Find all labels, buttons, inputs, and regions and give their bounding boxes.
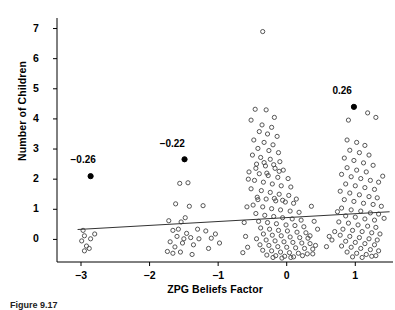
data-point xyxy=(311,252,315,256)
data-point xyxy=(259,189,263,193)
data-point xyxy=(363,143,367,147)
data-point xyxy=(167,219,171,223)
data-point xyxy=(344,182,348,186)
data-point xyxy=(339,172,343,176)
data-point xyxy=(268,157,272,161)
data-point xyxy=(217,241,221,245)
annotation-label-1: −0.22 xyxy=(160,138,185,149)
data-point xyxy=(367,237,371,241)
x-tick-label-3: 0 xyxy=(272,269,302,281)
data-point xyxy=(261,205,265,209)
data-point xyxy=(190,252,194,256)
x-tick-label-1: −2 xyxy=(135,269,165,281)
data-point xyxy=(279,184,283,188)
data-point xyxy=(252,138,256,142)
data-point xyxy=(305,252,309,256)
data-point xyxy=(276,245,280,249)
data-point xyxy=(346,221,350,225)
data-point xyxy=(372,187,376,191)
data-point xyxy=(357,236,361,240)
data-point xyxy=(178,181,182,185)
data-point xyxy=(374,254,378,258)
data-point xyxy=(299,218,303,222)
data-point xyxy=(277,192,281,196)
data-point xyxy=(313,243,317,247)
data-point xyxy=(367,195,371,199)
data-point xyxy=(276,151,280,155)
x-tick-label-2: −1 xyxy=(203,269,233,281)
data-point xyxy=(265,132,269,136)
data-point xyxy=(284,223,288,227)
data-point xyxy=(371,163,375,167)
data-point xyxy=(294,246,298,250)
y-tick-label-2: 2 xyxy=(25,172,47,184)
data-point xyxy=(175,234,179,238)
data-point xyxy=(89,237,93,241)
data-point xyxy=(271,143,275,147)
data-point xyxy=(270,207,274,211)
data-point xyxy=(366,224,370,228)
data-point xyxy=(359,209,363,213)
y-tick-label-6: 6 xyxy=(25,52,47,64)
data-point xyxy=(276,228,280,232)
data-point xyxy=(359,246,363,250)
data-point xyxy=(261,180,265,184)
data-point xyxy=(264,197,268,201)
data-point xyxy=(333,229,337,233)
data-point xyxy=(273,239,277,243)
data-point xyxy=(272,115,276,119)
data-point xyxy=(296,251,300,255)
plot-axes xyxy=(57,18,393,262)
data-point xyxy=(249,187,253,191)
data-point xyxy=(267,227,271,231)
data-point xyxy=(308,242,312,246)
annotation-label-0: −0.26 xyxy=(70,154,95,165)
data-point xyxy=(370,254,374,258)
data-point xyxy=(201,204,205,208)
data-point xyxy=(270,233,274,237)
data-point xyxy=(279,234,283,238)
data-point xyxy=(195,227,199,231)
data-point xyxy=(262,140,266,144)
data-point xyxy=(372,218,376,222)
data-point xyxy=(213,232,217,236)
data-point xyxy=(267,148,271,152)
data-point xyxy=(246,245,250,249)
data-point xyxy=(257,219,261,223)
data-point xyxy=(349,208,353,212)
data-point xyxy=(372,243,376,247)
figure-caption: Figure 9.17 xyxy=(10,300,390,310)
data-point xyxy=(263,213,267,217)
data-point xyxy=(312,219,316,223)
data-point xyxy=(254,211,258,215)
data-point xyxy=(342,156,346,160)
data-point xyxy=(242,220,246,224)
data-point xyxy=(352,158,356,162)
data-point xyxy=(261,248,265,252)
data-point xyxy=(268,190,272,194)
data-point xyxy=(339,206,343,210)
data-point xyxy=(276,175,280,179)
data-point xyxy=(348,148,352,152)
data-point xyxy=(297,210,301,214)
data-point xyxy=(243,234,247,238)
data-point xyxy=(270,182,274,186)
data-point xyxy=(204,229,208,233)
data-point xyxy=(375,196,379,200)
data-point xyxy=(295,230,299,234)
data-point xyxy=(300,254,304,258)
data-point xyxy=(176,227,180,231)
data-point xyxy=(291,240,295,244)
y-axis-ticks xyxy=(53,29,57,240)
data-point xyxy=(360,255,364,259)
data-point xyxy=(189,236,193,240)
data-point xyxy=(206,246,210,250)
data-point xyxy=(253,107,257,111)
data-point xyxy=(293,223,297,227)
data-point xyxy=(246,177,250,181)
data-point xyxy=(302,246,306,250)
data-point xyxy=(261,232,265,236)
data-point xyxy=(249,118,253,122)
y-tick-label-4: 4 xyxy=(25,112,47,124)
